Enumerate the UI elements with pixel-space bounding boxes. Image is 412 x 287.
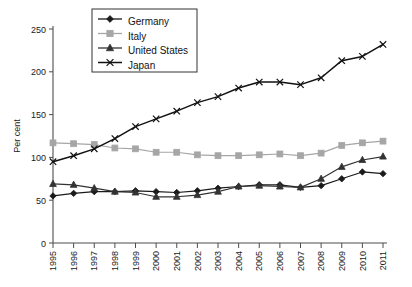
legend-label: United States — [128, 45, 188, 56]
x-tick-label: 2010 — [358, 251, 368, 271]
chart-container: 050100150200250 199519961997199819992000… — [0, 0, 412, 287]
x-tick-label: 2003 — [213, 251, 223, 271]
x-marker — [380, 41, 386, 47]
legend-label: Italy — [128, 31, 146, 42]
square-marker — [359, 140, 365, 146]
x-tick-label: 2002 — [193, 251, 203, 271]
x-tick-label: 1995 — [48, 251, 58, 271]
square-marker — [298, 153, 304, 159]
triangle-marker — [50, 180, 57, 186]
x-tick-label: 2008 — [316, 251, 326, 271]
y-tick-label: 150 — [31, 110, 46, 120]
diamond-marker — [70, 190, 76, 196]
triangle-marker — [380, 153, 387, 159]
diamond-marker — [339, 176, 345, 182]
square-marker — [215, 153, 221, 159]
square-marker — [112, 145, 118, 151]
x-tick-label: 2000 — [151, 251, 161, 271]
x-tick-label: 2005 — [254, 251, 264, 271]
square-marker — [318, 150, 324, 156]
square-marker — [174, 149, 180, 155]
x-tick-label: 2007 — [296, 251, 306, 271]
y-tick-label: 50 — [36, 196, 46, 206]
diamond-marker — [359, 169, 365, 175]
x-tick-label: 2009 — [337, 251, 347, 271]
legend-label: Japan — [128, 60, 155, 71]
x-marker — [112, 135, 118, 141]
square-marker — [256, 152, 262, 158]
y-tick-label: 250 — [31, 25, 46, 35]
y-tick-label: 0 — [41, 239, 46, 249]
x-tick-label: 2001 — [172, 251, 182, 271]
square-marker — [339, 142, 345, 148]
x-tick-label: 1996 — [69, 251, 79, 271]
chart-legend: GermanyItalyUnited StatesJapan — [92, 9, 197, 72]
y-axis-title: Per cent — [12, 119, 22, 153]
y-tick-label: 100 — [31, 153, 46, 163]
line-chart: 050100150200250 199519961997199819992000… — [0, 0, 412, 287]
x-tick-label: 1999 — [131, 251, 141, 271]
y-axis: 050100150200250 — [31, 25, 53, 249]
x-tick-label: 2004 — [234, 251, 244, 271]
series-united-states — [50, 153, 387, 199]
x-marker — [153, 116, 159, 122]
square-marker — [133, 146, 139, 152]
square-marker — [107, 30, 113, 36]
x-axis: 1995199619971998199920002001200220032004… — [48, 243, 388, 271]
y-tick-label: 200 — [31, 67, 46, 77]
x-tick-label: 1997 — [89, 251, 99, 271]
x-tick-label: 2006 — [275, 251, 285, 271]
diamond-marker — [380, 170, 386, 176]
square-marker — [236, 153, 242, 159]
square-marker — [153, 149, 159, 155]
x-marker — [132, 123, 138, 129]
diamond-marker — [50, 193, 56, 199]
series-italy — [50, 138, 386, 158]
square-marker — [194, 152, 200, 158]
square-marker — [277, 151, 283, 157]
triangle-marker — [318, 175, 325, 181]
x-tick-label: 2011 — [378, 251, 388, 270]
square-marker — [71, 141, 77, 147]
diamond-marker — [318, 182, 324, 188]
square-marker — [50, 140, 56, 146]
x-tick-label: 1998 — [110, 251, 120, 271]
x-marker — [174, 108, 180, 114]
square-marker — [380, 138, 386, 144]
legend-label: Germany — [128, 16, 169, 27]
